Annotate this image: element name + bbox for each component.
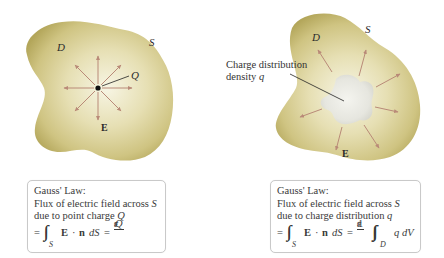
law-line-1: Flux of electric field across S (34, 198, 159, 211)
charge-distribution-callout: Charge distribution density q (226, 59, 307, 83)
law-line-1: Flux of electric field across S (277, 198, 414, 211)
region-d-label-right: D (312, 32, 320, 43)
surface-s-label-left: S (149, 37, 155, 48)
charge-q-label: Q (131, 70, 139, 81)
law-line-2: due to charge distribution q (277, 210, 414, 223)
gauss-law-box-point-charge: Gauss' Law: Flux of electric field acros… (27, 180, 166, 253)
callout-line-2: density q (226, 71, 307, 83)
law-title: Gauss' Law: (277, 185, 414, 198)
gauss-equation-point: = ∫∫ S E · n dS = Q ε0 (34, 224, 159, 250)
point-charge-q (95, 85, 100, 90)
law-title: Gauss' Law: (34, 185, 159, 198)
gauss-equation-distribution: = ∫∫ S E · n dS = 1 ε0 ∫∫∫ D q dV (277, 224, 414, 250)
surface-s-label-right: S (365, 24, 371, 35)
field-e-label-right: E (342, 149, 349, 159)
region-d-label-left: D (57, 42, 65, 53)
law-line-2: due to point charge Q (34, 210, 159, 223)
callout-line-1: Charge distribution (226, 59, 307, 71)
field-e-label-left: E (101, 123, 108, 133)
gauss-law-box-charge-distribution: Gauss' Law: Flux of electric field acros… (270, 180, 421, 253)
